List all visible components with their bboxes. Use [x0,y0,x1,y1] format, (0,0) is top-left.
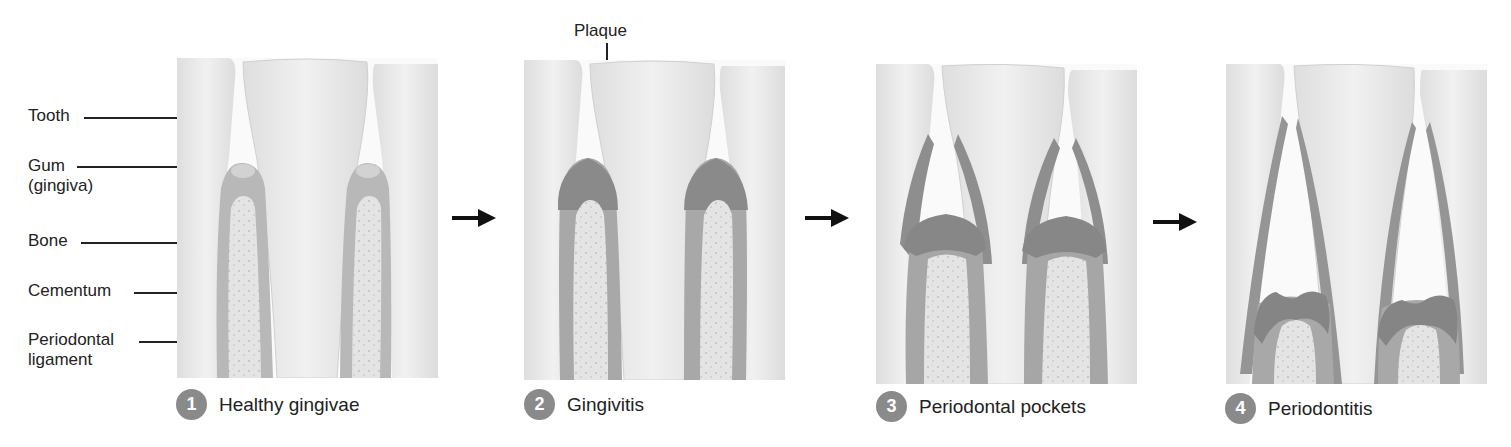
stage-label: Periodontitis [1268,398,1373,420]
arrow-right-icon [805,208,849,228]
panel-periodontal-pockets [876,64,1137,384]
arrow-right-icon [1153,212,1197,232]
leader-tooth [84,117,189,119]
label-gum: Gum [28,156,65,176]
label-tooth: Tooth [28,106,70,126]
label-cementum: Cementum [28,281,111,301]
stage-label: Periodontal pockets [919,396,1086,418]
stage-caption-4: 4 Periodontitis [1225,393,1373,424]
stage-caption-1: 1 Healthy gingivae [176,389,359,420]
stage-number-badge: 2 [524,389,555,420]
panel-periodontitis [1226,64,1487,384]
panel-gingivitis [524,60,785,380]
panel-healthy-gingivae [177,58,438,378]
label-bone: Bone [28,231,68,251]
label-ligament-sub: ligament [28,350,92,370]
stage-label: Healthy gingivae [219,394,359,416]
stage-number-badge: 3 [876,391,907,422]
label-ligament: Periodontal [28,330,114,350]
stage-number-badge: 1 [176,389,207,420]
stage-caption-2: 2 Gingivitis [524,389,644,420]
label-gum-sub: (gingiva) [28,176,93,196]
stage-caption-3: 3 Periodontal pockets [876,391,1086,422]
label-plaque: Plaque [574,21,627,41]
arrow-right-icon [452,208,496,228]
stage-label: Gingivitis [567,394,644,416]
stage-number-badge: 4 [1225,393,1256,424]
